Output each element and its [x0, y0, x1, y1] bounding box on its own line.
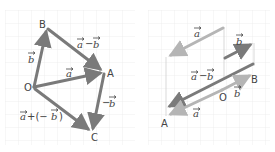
label-top-a: a: [194, 27, 201, 40]
label-ob-b: b: [234, 86, 241, 100]
svg-text:b: b: [234, 88, 240, 99]
label-vec-a-plus-neg-b: a +(− b ): [20, 109, 63, 123]
svg-text:a: a: [20, 111, 26, 122]
svg-text:a: a: [194, 28, 200, 39]
svg-text:a: a: [66, 68, 72, 79]
label-vec-a-minus-b: a − b: [77, 37, 100, 51]
svg-text:b: b: [109, 98, 115, 109]
svg-text:b: b: [207, 71, 213, 82]
svg-text:b: b: [236, 36, 242, 47]
svg-text:): ): [59, 111, 63, 122]
label-vec-neg-b: − b: [102, 96, 116, 110]
svg-text:b: b: [51, 111, 57, 122]
vector-diagrams: B A O C b a a − b − b a +(− b: [0, 0, 275, 152]
svg-text:b: b: [28, 54, 34, 65]
label-oa-a: a: [193, 108, 200, 120]
label-vec-b: b: [28, 52, 35, 66]
svg-text:b: b: [93, 39, 99, 50]
point-c-label: C: [91, 132, 98, 143]
label-b-dark: b: [236, 34, 243, 48]
svg-text:a: a: [77, 39, 83, 50]
point-o-label-right: O: [219, 92, 227, 103]
point-a-label: A: [107, 68, 114, 79]
svg-text:a: a: [191, 71, 197, 82]
label-vec-a: a: [66, 68, 73, 80]
svg-text:a: a: [193, 108, 199, 119]
point-b-label: B: [39, 19, 46, 30]
point-o-label: O: [24, 82, 32, 93]
point-b-label-right: B: [251, 74, 258, 85]
label-a-minus-b-right: a − b: [191, 69, 214, 83]
svg-text:+(−: +(−: [27, 111, 48, 122]
point-a-label-right: A: [161, 118, 168, 129]
